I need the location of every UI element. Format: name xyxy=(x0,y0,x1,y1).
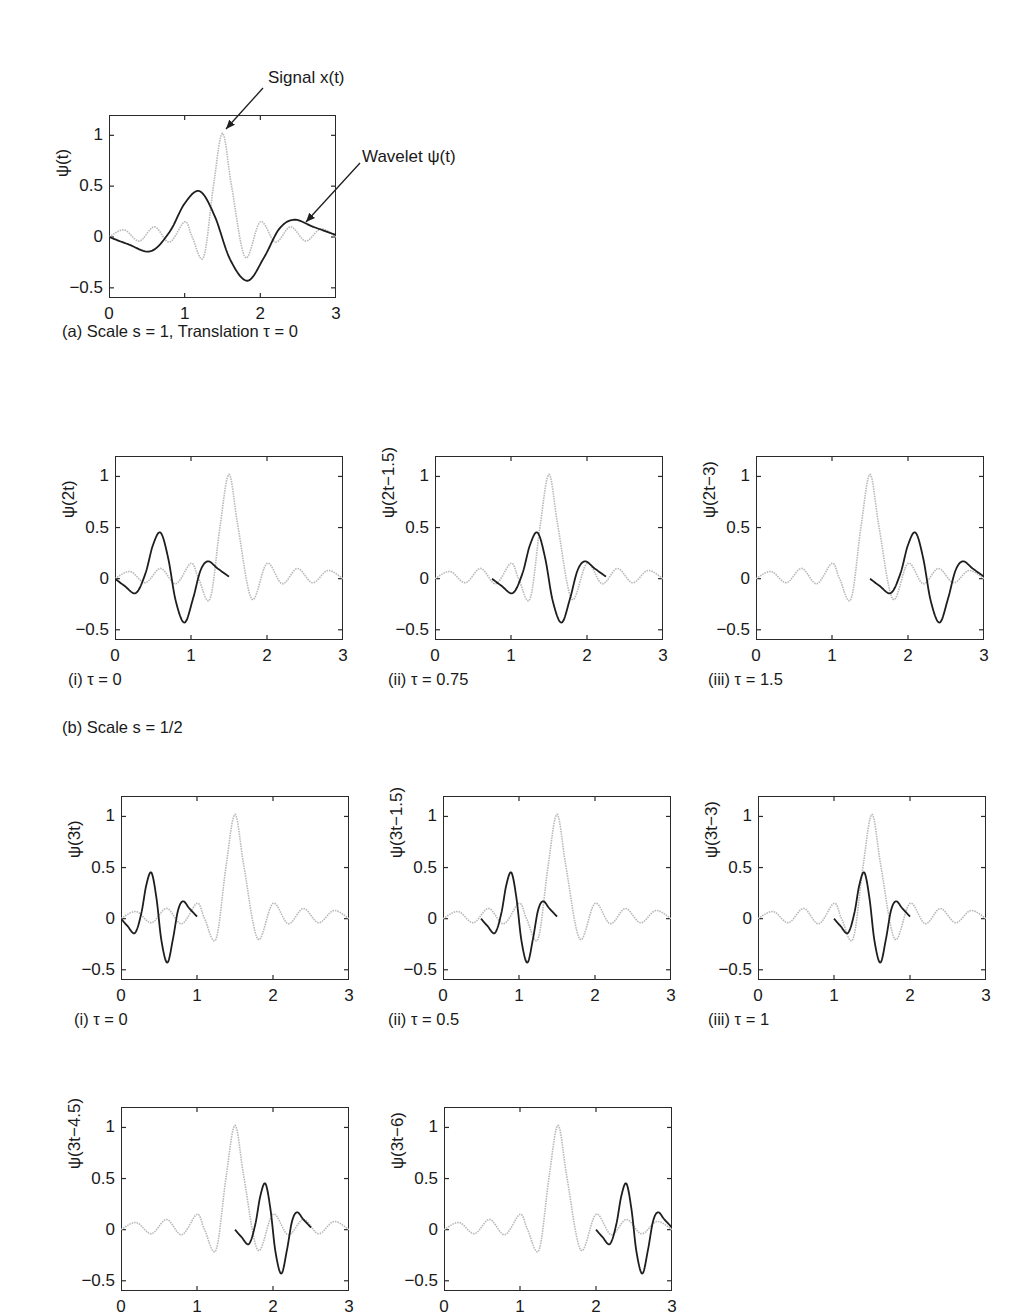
y-tick-label: −0.5 xyxy=(53,278,103,298)
x-tick-label: 3 xyxy=(334,986,364,1006)
x-tick-label: 3 xyxy=(328,646,358,666)
y-axis-label: ψ(2t) xyxy=(59,480,79,518)
y-tick-label: 0.5 xyxy=(387,858,437,878)
y-tick-label: 0.5 xyxy=(65,1169,115,1189)
wavelet-curve xyxy=(834,872,910,962)
y-tick-label: 0.5 xyxy=(702,858,752,878)
x-tick-label: 0 xyxy=(420,646,450,666)
x-tick-label: 1 xyxy=(504,986,534,1006)
panel-caption: (i) τ = 0 xyxy=(68,670,122,689)
signal-curve xyxy=(443,814,671,941)
panel-caption: (ii) τ = 0.75 xyxy=(388,670,468,689)
wavelet-curve xyxy=(492,532,606,622)
y-tick-label: −0.5 xyxy=(59,620,109,640)
x-tick-label: 2 xyxy=(580,986,610,1006)
y-tick-label: −0.5 xyxy=(379,620,429,640)
y-axis-label: ψ(3t−6) xyxy=(388,1112,408,1169)
x-tick-label: 2 xyxy=(893,646,923,666)
wavelet-curve xyxy=(109,191,336,281)
signal-curve xyxy=(121,1125,349,1252)
y-axis-label: ψ(2t−3) xyxy=(700,461,720,518)
y-tick-label: 0.5 xyxy=(388,1169,438,1189)
x-tick-label: 1 xyxy=(182,986,212,1006)
x-tick-label: 2 xyxy=(258,1297,288,1316)
x-tick-label: 0 xyxy=(94,304,124,324)
panel-caption: (iii) τ = 1 xyxy=(708,1010,769,1029)
x-tick-label: 3 xyxy=(969,646,999,666)
x-tick-label: 2 xyxy=(252,646,282,666)
x-tick-label: 2 xyxy=(581,1297,611,1316)
y-tick-label: 0.5 xyxy=(59,518,109,538)
y-tick-label: 0 xyxy=(387,909,437,929)
signal-curve xyxy=(444,1125,672,1252)
caption-a: (a) Scale s = 1, Translation τ = 0 xyxy=(62,322,298,341)
x-tick-label: 1 xyxy=(182,1297,212,1316)
y-axis-label: ψ(3t) xyxy=(65,820,85,858)
x-tick-label: 0 xyxy=(106,986,136,1006)
wavelet-curve xyxy=(121,872,197,962)
caption-b: (b) Scale s = 1/2 xyxy=(62,718,183,737)
x-tick-label: 0 xyxy=(741,646,771,666)
annotation-signal: Signal x(t) xyxy=(268,68,345,88)
x-tick-label: 3 xyxy=(648,646,678,666)
y-axis-label: ψ(t) xyxy=(53,149,73,177)
y-tick-label: 0 xyxy=(53,227,103,247)
y-tick-label: 0 xyxy=(65,909,115,929)
x-tick-label: 0 xyxy=(428,986,458,1006)
x-tick-label: 1 xyxy=(505,1297,535,1316)
x-tick-label: 1 xyxy=(496,646,526,666)
y-axis-label: ψ(3t−3) xyxy=(702,801,722,858)
signal-curve xyxy=(756,474,984,601)
x-tick-label: 0 xyxy=(743,986,773,1006)
y-tick-label: 0 xyxy=(379,569,429,589)
y-tick-label: 1 xyxy=(53,125,103,145)
y-tick-label: 0 xyxy=(65,1220,115,1240)
x-tick-label: 3 xyxy=(334,1297,364,1316)
y-axis-label: ψ(3t−4.5) xyxy=(65,1098,85,1169)
x-tick-label: 2 xyxy=(245,304,275,324)
panel-caption: (iii) τ = 1.5 xyxy=(708,670,783,689)
x-tick-label: 0 xyxy=(106,1297,136,1316)
x-tick-label: 1 xyxy=(170,304,200,324)
y-tick-label: −0.5 xyxy=(700,620,750,640)
y-tick-label: 0.5 xyxy=(700,518,750,538)
x-tick-label: 2 xyxy=(258,986,288,1006)
y-tick-label: 0.5 xyxy=(53,176,103,196)
y-tick-label: 0 xyxy=(702,909,752,929)
x-tick-label: 2 xyxy=(572,646,602,666)
x-tick-label: 1 xyxy=(176,646,206,666)
wavelet-curve xyxy=(115,532,229,622)
annotation-wavelet: Wavelet ψ(t) xyxy=(362,147,456,167)
x-tick-label: 1 xyxy=(817,646,847,666)
panel-caption: (i) τ = 0 xyxy=(74,1010,128,1029)
y-tick-label: −0.5 xyxy=(65,960,115,980)
x-tick-label: 2 xyxy=(895,986,925,1006)
x-tick-label: 3 xyxy=(321,304,351,324)
y-tick-label: 0.5 xyxy=(379,518,429,538)
y-tick-label: −0.5 xyxy=(65,1271,115,1291)
x-tick-label: 0 xyxy=(100,646,130,666)
y-tick-label: 0 xyxy=(700,569,750,589)
y-tick-label: 0 xyxy=(59,569,109,589)
signal-curve xyxy=(115,474,343,601)
signal-curve xyxy=(121,814,349,941)
y-tick-label: 0.5 xyxy=(65,858,115,878)
x-tick-label: 3 xyxy=(656,986,686,1006)
panel-caption: (ii) τ = 0.5 xyxy=(388,1010,459,1029)
y-tick-label: −0.5 xyxy=(388,1271,438,1291)
y-tick-label: 0 xyxy=(388,1220,438,1240)
y-tick-label: −0.5 xyxy=(387,960,437,980)
y-axis-label: ψ(3t−1.5) xyxy=(387,787,407,858)
x-tick-label: 3 xyxy=(657,1297,687,1316)
y-tick-label: −0.5 xyxy=(702,960,752,980)
x-tick-label: 3 xyxy=(971,986,1001,1006)
y-axis-label: ψ(2t−1.5) xyxy=(379,447,399,518)
x-tick-label: 1 xyxy=(819,986,849,1006)
x-tick-label: 0 xyxy=(429,1297,459,1316)
